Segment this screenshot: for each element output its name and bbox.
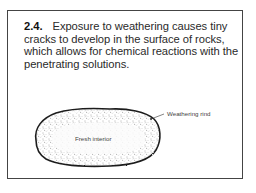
- rind-leader-line: [151, 114, 164, 119]
- rock-illustration: Weathering rind Fresh interior: [0, 0, 256, 193]
- weathering-rind-label: Weathering rind: [167, 110, 211, 117]
- fresh-interior-label: Fresh interior: [75, 135, 111, 142]
